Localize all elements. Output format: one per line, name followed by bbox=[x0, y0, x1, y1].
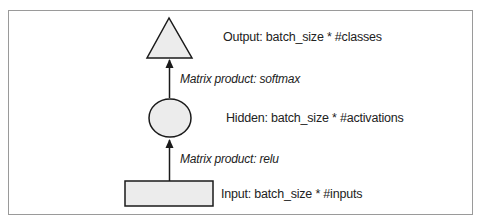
hidden-node-label: Hidden: batch_size * #activations bbox=[226, 111, 404, 125]
input-node-rectangle bbox=[125, 181, 213, 206]
output-node-triangle bbox=[147, 18, 192, 58]
arrowhead-icon bbox=[166, 139, 174, 148]
edge-label-softmax: Matrix product: softmax bbox=[180, 72, 300, 86]
arrowhead-icon bbox=[166, 59, 174, 68]
edge-label-relu: Matrix product: relu bbox=[180, 152, 279, 166]
input-node-label: Input: batch_size * #inputs bbox=[221, 187, 362, 201]
hidden-node-ellipse bbox=[149, 99, 191, 137]
output-node-label: Output: batch_size * #classes bbox=[223, 30, 382, 44]
